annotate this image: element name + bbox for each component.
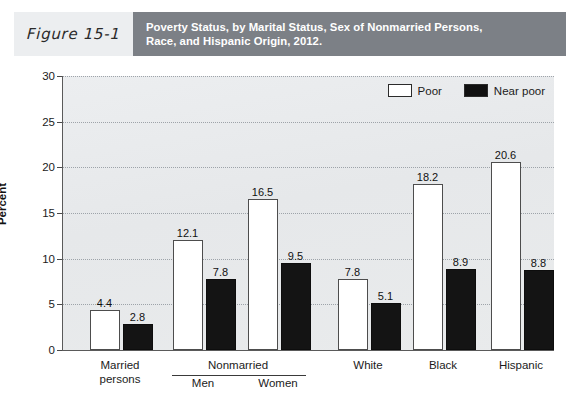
bar-near-poor: 9.5: [281, 263, 311, 350]
x-label-black: Black: [429, 359, 457, 371]
y-tick-label: 20: [25, 161, 55, 173]
y-tick-mark: [57, 122, 62, 123]
bar-value-label: 9.5: [288, 250, 303, 262]
x-label-married: Married persons: [100, 359, 141, 386]
x-label-men: Men: [192, 377, 214, 389]
bar-near-poor: 7.8: [206, 279, 236, 350]
chart-legend: PoorNear poor: [388, 84, 545, 97]
y-axis-tick-labels: 051015202530: [0, 76, 55, 350]
bar-value-label: 7.8: [213, 266, 228, 278]
bar-value-label: 8.8: [531, 257, 546, 269]
legend-item: Poor: [388, 84, 442, 97]
y-tick-label: 5: [25, 298, 55, 310]
legend-swatch-near-poor: [464, 84, 488, 97]
bar-poor: 12.1: [173, 240, 203, 351]
bar-near-poor: 8.9: [446, 269, 476, 350]
x-label-nonmarried: Nonmarried: [208, 359, 268, 371]
legend-swatch-poor: [388, 84, 412, 97]
bar-value-label: 20.6: [495, 149, 516, 161]
legend-label: Poor: [418, 85, 442, 97]
bar-poor: 18.2: [413, 184, 443, 350]
gridline: [63, 76, 554, 77]
y-tick-mark: [57, 76, 62, 77]
figure-title-line-1: Poverty Status, by Marital Status, Sex o…: [146, 21, 482, 33]
figure-title-line-2: Race, and Hispanic Origin, 2012.: [146, 35, 322, 47]
gridline: [63, 259, 554, 260]
y-tick-label: 10: [25, 253, 55, 265]
x-axis-labels: Married persons Nonmarried Men Women Whi…: [62, 354, 553, 408]
plot-area: PoorNear poor 4.42.812.17.816.59.57.85.1…: [62, 76, 554, 351]
bar-value-label: 12.1: [177, 227, 198, 239]
y-tick-mark: [57, 213, 62, 214]
bar-value-label: 4.4: [97, 297, 112, 309]
legend-item: Near poor: [464, 84, 545, 97]
legend-label: Near poor: [494, 85, 545, 97]
figure-title: Poverty Status, by Marital Status, Sex o…: [146, 20, 482, 49]
gridline: [63, 213, 554, 214]
figure-number-box: Figure 15-1: [14, 12, 133, 56]
gridline: [63, 167, 554, 168]
y-tick-mark: [57, 304, 62, 305]
y-tick-mark: [57, 167, 62, 168]
bar-value-label: 18.2: [417, 171, 438, 183]
gridline: [63, 122, 554, 123]
bar-value-label: 5.1: [378, 290, 393, 302]
x-label-white: White: [353, 359, 382, 371]
bar-near-poor: 2.8: [123, 324, 153, 350]
y-tick-label: 0: [25, 344, 55, 356]
figure-title-box: Poverty Status, by Marital Status, Sex o…: [133, 12, 566, 56]
x-label-married-line2: persons: [100, 373, 141, 385]
y-tick-label: 25: [25, 116, 55, 128]
bar-poor: 7.8: [338, 279, 368, 350]
y-tick-label: 30: [25, 70, 55, 82]
x-label-married-line1: Married: [101, 359, 140, 371]
figure-header: Figure 15-1 Poverty Status, by Marital S…: [14, 12, 566, 56]
bar-value-label: 2.8: [130, 311, 145, 323]
bar-near-poor: 5.1: [371, 303, 401, 350]
figure-number-label: Figure 15-1: [26, 25, 121, 43]
y-tick-mark: [57, 350, 62, 351]
bar-poor: 4.4: [90, 310, 120, 350]
nonmarried-bracket: [172, 375, 306, 376]
y-tick-label: 15: [25, 207, 55, 219]
chart-area: Percent 051015202530 PoorNear poor 4.42.…: [0, 58, 575, 408]
x-label-hispanic: Hispanic: [499, 359, 543, 371]
bar-value-label: 16.5: [252, 186, 273, 198]
bar-value-label: 7.8: [345, 266, 360, 278]
bar-value-label: 8.9: [453, 256, 468, 268]
bar-near-poor: 8.8: [524, 270, 554, 350]
x-label-women: Women: [258, 377, 297, 389]
bar-poor: 16.5: [248, 199, 278, 350]
y-tick-mark: [57, 259, 62, 260]
bar-poor: 20.6: [491, 162, 521, 350]
